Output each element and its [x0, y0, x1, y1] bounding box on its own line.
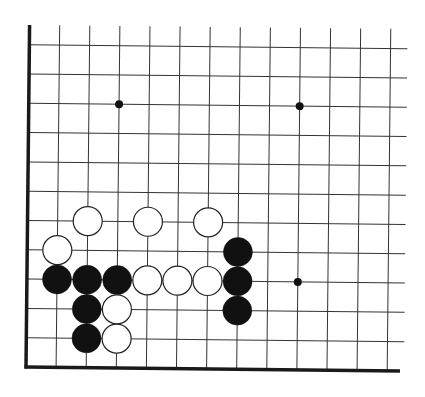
grid-line-horizontal [29, 74, 407, 78]
grid-line-vertical [327, 28, 331, 370]
black-stone [42, 265, 71, 294]
black-stone [223, 296, 252, 325]
grid-line-vertical [297, 28, 301, 370]
grid-line-vertical [267, 28, 271, 370]
grid-line-horizontal [27, 250, 405, 254]
star-point-icon [294, 278, 302, 286]
grid-line-vertical [146, 26, 150, 368]
grid-line-vertical [176, 27, 180, 369]
black-stone [223, 267, 252, 296]
star-point-icon [115, 100, 123, 108]
star-point-icon [296, 102, 304, 110]
white-stone [133, 207, 162, 236]
grid-line-vertical [207, 27, 211, 369]
grid-line-vertical [357, 28, 361, 370]
board-edge-bottom [25, 367, 400, 371]
white-stone [73, 206, 102, 235]
grid-line-horizontal [28, 162, 406, 166]
black-stone [72, 324, 101, 353]
white-stone [133, 266, 162, 295]
go-board [0, 0, 425, 397]
grid-line-horizontal [28, 133, 406, 137]
grid-line-vertical [56, 25, 60, 367]
black-stone [103, 265, 132, 294]
white-stone [102, 324, 131, 353]
white-stone [102, 295, 131, 324]
board-edge-left [26, 25, 30, 368]
board-rotation [24, 25, 407, 372]
grid-line-horizontal [29, 103, 407, 107]
white-stone [193, 208, 222, 237]
black-stone [72, 294, 101, 323]
white-stone [193, 266, 222, 295]
black-stone [72, 265, 101, 294]
stones [42, 206, 253, 354]
black-stone [223, 237, 252, 266]
grid-line-horizontal [29, 45, 407, 49]
white-stone [43, 235, 72, 264]
white-stone [163, 266, 192, 295]
grid-line-horizontal [28, 191, 406, 195]
grid-line-vertical [387, 29, 391, 371]
